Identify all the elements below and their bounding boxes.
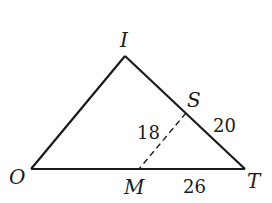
side-IT (125, 56, 245, 169)
measure-ST: 20 (213, 115, 236, 136)
measure-MT: 26 (183, 176, 206, 197)
vertex-label-I: I (119, 28, 129, 52)
measure-SM: 18 (137, 122, 160, 143)
side-OI (31, 56, 125, 169)
point-label-M: M (123, 175, 145, 199)
vertex-label-O: O (9, 165, 25, 189)
triangle-diagram: I O T S M 18 20 26 (0, 0, 272, 203)
triangle-sides (31, 56, 245, 169)
point-label-S: S (187, 88, 201, 112)
vertex-label-T: T (247, 169, 262, 193)
